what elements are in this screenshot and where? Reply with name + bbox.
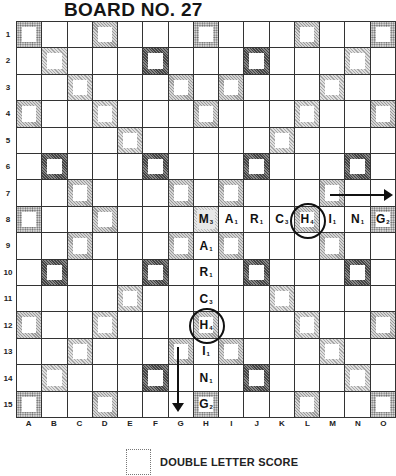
board-cell-j15[interactable] — [244, 392, 269, 418]
board-cell-b2[interactable] — [42, 48, 67, 74]
board-cell-d4[interactable] — [93, 101, 118, 127]
board-cell-n4[interactable] — [345, 101, 370, 127]
board-cell-d7[interactable] — [93, 180, 118, 206]
board-cell-d10[interactable] — [93, 260, 118, 286]
board-cell-n2[interactable] — [345, 48, 370, 74]
board-cell-a5[interactable] — [17, 128, 42, 154]
board-cell-o1[interactable] — [371, 22, 396, 48]
board-cell-o6[interactable] — [371, 154, 396, 180]
board-cell-k2[interactable] — [270, 48, 295, 74]
board-cell-f10[interactable] — [143, 260, 168, 286]
board-cell-i9[interactable] — [219, 233, 244, 259]
board-cell-b12[interactable] — [42, 312, 67, 338]
board-cell-f4[interactable] — [143, 101, 168, 127]
board-cell-g2[interactable] — [169, 48, 194, 74]
board-cell-c8[interactable] — [68, 207, 93, 233]
board-cell-o3[interactable] — [371, 75, 396, 101]
board-cell-o9[interactable] — [371, 233, 396, 259]
board-cell-g9[interactable] — [169, 233, 194, 259]
board-cell-h15[interactable]: G2 — [194, 392, 219, 418]
board-cell-i11[interactable] — [219, 286, 244, 312]
board-cell-j2[interactable] — [244, 48, 269, 74]
board-cell-i13[interactable] — [219, 339, 244, 365]
board-cell-c12[interactable] — [68, 312, 93, 338]
board-cell-i3[interactable] — [219, 75, 244, 101]
board-cell-l4[interactable] — [295, 101, 320, 127]
board-cell-f5[interactable] — [143, 128, 168, 154]
board-cell-h7[interactable] — [194, 180, 219, 206]
board-cell-d1[interactable] — [93, 22, 118, 48]
board-cell-d12[interactable] — [93, 312, 118, 338]
board-cell-o14[interactable] — [371, 365, 396, 391]
board-cell-h14[interactable]: N1 — [194, 365, 219, 391]
board-cell-l5[interactable] — [295, 128, 320, 154]
board-cell-o11[interactable] — [371, 286, 396, 312]
board-cell-k15[interactable] — [270, 392, 295, 418]
board-cell-o12[interactable] — [371, 312, 396, 338]
board-cell-k13[interactable] — [270, 339, 295, 365]
board-cell-j4[interactable] — [244, 101, 269, 127]
board-cell-k6[interactable] — [270, 154, 295, 180]
board-cell-h9[interactable]: A1 — [194, 233, 219, 259]
board-cell-c3[interactable] — [68, 75, 93, 101]
board-cell-l2[interactable] — [295, 48, 320, 74]
board-cell-o2[interactable] — [371, 48, 396, 74]
board-cell-j13[interactable] — [244, 339, 269, 365]
board-cell-d5[interactable] — [93, 128, 118, 154]
board-cell-l11[interactable] — [295, 286, 320, 312]
board-cell-e14[interactable] — [118, 365, 143, 391]
board-cell-j10[interactable] — [244, 260, 269, 286]
board-cell-b7[interactable] — [42, 180, 67, 206]
board-cell-o8[interactable]: G2 — [371, 207, 396, 233]
board-cell-j5[interactable] — [244, 128, 269, 154]
board-cell-b3[interactable] — [42, 75, 67, 101]
board-cell-i10[interactable] — [219, 260, 244, 286]
board-cell-d3[interactable] — [93, 75, 118, 101]
board-cell-n1[interactable] — [345, 22, 370, 48]
board-cell-l15[interactable] — [295, 392, 320, 418]
board-cell-m15[interactable] — [320, 392, 345, 418]
board-cell-b14[interactable] — [42, 365, 67, 391]
board-cell-e8[interactable] — [118, 207, 143, 233]
board-cell-a2[interactable] — [17, 48, 42, 74]
board-cell-k1[interactable] — [270, 22, 295, 48]
board-cell-g11[interactable] — [169, 286, 194, 312]
board-cell-c4[interactable] — [68, 101, 93, 127]
board-cell-l12[interactable] — [295, 312, 320, 338]
board-cell-i1[interactable] — [219, 22, 244, 48]
board-cell-d15[interactable] — [93, 392, 118, 418]
board-cell-c6[interactable] — [68, 154, 93, 180]
board-cell-a1[interactable] — [17, 22, 42, 48]
board-cell-k7[interactable] — [270, 180, 295, 206]
board-cell-j8[interactable]: R1 — [244, 207, 269, 233]
board-cell-e5[interactable] — [118, 128, 143, 154]
board-cell-g7[interactable] — [169, 180, 194, 206]
board-cell-d6[interactable] — [93, 154, 118, 180]
board-cell-n10[interactable] — [345, 260, 370, 286]
board-cell-b4[interactable] — [42, 101, 67, 127]
board-cell-o15[interactable] — [371, 392, 396, 418]
board-cell-b13[interactable] — [42, 339, 67, 365]
board-cell-b10[interactable] — [42, 260, 67, 286]
board-cell-h6[interactable] — [194, 154, 219, 180]
board-cell-j14[interactable] — [244, 365, 269, 391]
board-cell-i14[interactable] — [219, 365, 244, 391]
board-cell-c9[interactable] — [68, 233, 93, 259]
board-cell-b15[interactable] — [42, 392, 67, 418]
board-cell-i15[interactable] — [219, 392, 244, 418]
board-cell-m12[interactable] — [320, 312, 345, 338]
board-cell-f15[interactable] — [143, 392, 168, 418]
board-cell-m11[interactable] — [320, 286, 345, 312]
board-cell-m10[interactable] — [320, 260, 345, 286]
board-cell-n3[interactable] — [345, 75, 370, 101]
board-cell-d14[interactable] — [93, 365, 118, 391]
board-cell-o13[interactable] — [371, 339, 396, 365]
board-cell-f7[interactable] — [143, 180, 168, 206]
board-cell-k12[interactable] — [270, 312, 295, 338]
board-cell-f9[interactable] — [143, 233, 168, 259]
board-cell-a4[interactable] — [17, 101, 42, 127]
board-cell-f12[interactable] — [143, 312, 168, 338]
board-cell-m9[interactable] — [320, 233, 345, 259]
board-cell-j6[interactable] — [244, 154, 269, 180]
board-cell-m3[interactable] — [320, 75, 345, 101]
